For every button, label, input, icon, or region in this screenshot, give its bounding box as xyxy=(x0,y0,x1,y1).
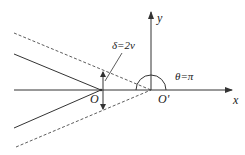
diagram-canvas xyxy=(0,0,245,155)
upper-crack-face xyxy=(14,54,101,90)
theta-label: θ=π xyxy=(175,71,193,82)
delta-label: δ=2v xyxy=(112,40,135,51)
origin-label: O xyxy=(90,93,99,105)
x-axis-label: x xyxy=(233,94,238,106)
origin-prime-label: O' xyxy=(158,93,169,105)
origin-point xyxy=(100,89,103,92)
y-axis-label: y xyxy=(157,12,162,24)
delta-leader-line xyxy=(105,53,122,81)
crack-tip-diagram: y x O O' δ=2v θ=π xyxy=(0,0,245,155)
lower-crack-face xyxy=(14,90,101,128)
